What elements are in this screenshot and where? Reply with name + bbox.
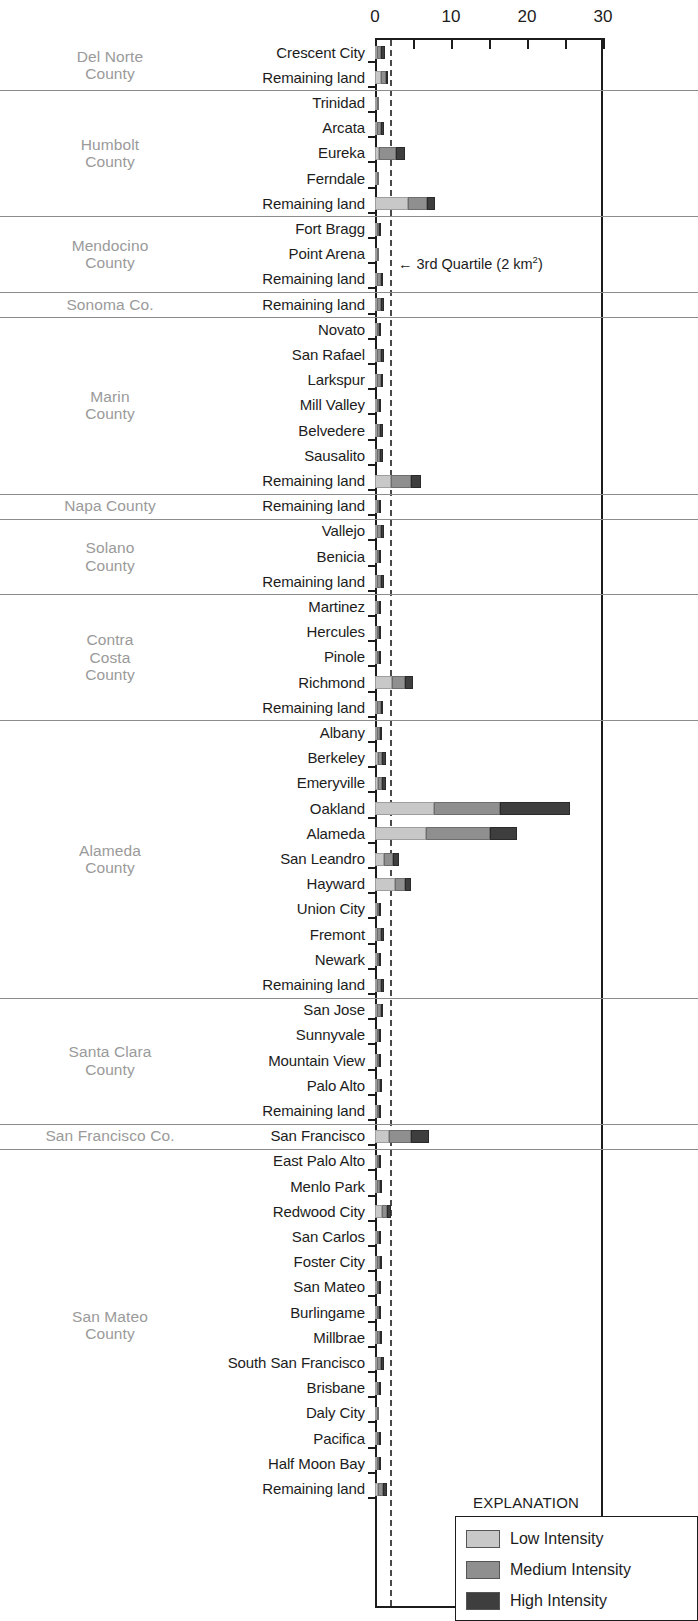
legend-swatch bbox=[466, 1561, 500, 1579]
county-separator bbox=[0, 594, 698, 595]
legend-item: Medium Intensity bbox=[466, 1554, 697, 1585]
bar bbox=[375, 802, 570, 815]
bar bbox=[375, 1382, 381, 1395]
row-label: Alameda bbox=[0, 826, 370, 841]
row-tick bbox=[368, 917, 375, 919]
row-tick bbox=[368, 86, 375, 88]
bar-segment-high bbox=[381, 374, 383, 387]
bar bbox=[375, 273, 383, 286]
bar-segment-high bbox=[383, 1483, 387, 1496]
bar bbox=[375, 827, 517, 840]
row-tick bbox=[368, 1396, 375, 1398]
bar-segment-high bbox=[386, 71, 388, 84]
bar-segment-high bbox=[381, 525, 384, 538]
bar-segment-high bbox=[379, 1029, 381, 1042]
row-label: Redwood City bbox=[0, 1204, 370, 1219]
bar-segment-high bbox=[381, 979, 384, 992]
bar-segment-high bbox=[380, 1256, 382, 1269]
bar bbox=[375, 1105, 381, 1118]
bar-segment-med bbox=[426, 827, 490, 840]
bar bbox=[375, 903, 381, 916]
row-tick bbox=[368, 514, 375, 516]
bar-segment-high bbox=[381, 349, 384, 362]
bar-segment-low bbox=[375, 475, 391, 488]
bar-segment-low bbox=[375, 676, 392, 689]
bar bbox=[375, 575, 384, 588]
bar-segment-med bbox=[377, 1407, 379, 1420]
row-tick bbox=[368, 615, 375, 617]
row-label: Pacifica bbox=[0, 1431, 370, 1446]
county-label: San Mateo County bbox=[10, 1308, 210, 1343]
county-separator bbox=[0, 494, 698, 495]
bar bbox=[375, 1281, 381, 1294]
bar bbox=[375, 223, 381, 236]
bar-segment-high bbox=[380, 424, 383, 437]
legend-swatch bbox=[466, 1530, 500, 1548]
row-tick bbox=[368, 766, 375, 768]
bar-segment-low bbox=[375, 1205, 382, 1218]
row-label: Newark bbox=[0, 952, 370, 967]
row-label: Berkeley bbox=[0, 750, 370, 765]
x-axis-tick-label: 20 bbox=[518, 8, 537, 25]
row-tick bbox=[368, 1321, 375, 1323]
x-axis bbox=[375, 38, 603, 50]
bar bbox=[375, 248, 379, 261]
bar bbox=[375, 1331, 382, 1344]
bar-segment-high bbox=[379, 500, 381, 513]
row-label: Half Moon Bay bbox=[0, 1456, 370, 1471]
row-label: Remaining land bbox=[0, 700, 370, 715]
bar-segment-high bbox=[379, 399, 381, 412]
row-tick bbox=[368, 1169, 375, 1171]
bar bbox=[375, 172, 379, 185]
bar bbox=[375, 651, 381, 664]
bar bbox=[375, 525, 384, 538]
bar bbox=[375, 1180, 382, 1193]
bar-segment-high bbox=[379, 1231, 381, 1244]
row-tick bbox=[368, 1472, 375, 1474]
bar-segment-high bbox=[379, 223, 381, 236]
bar-segment-high bbox=[381, 273, 384, 286]
bar-segment-med bbox=[377, 248, 379, 261]
row-label: East Palo Alto bbox=[0, 1153, 370, 1168]
row-tick bbox=[368, 665, 375, 667]
row-label: Palo Alto bbox=[0, 1078, 370, 1093]
x-axis-tick bbox=[565, 38, 567, 49]
county-separator bbox=[0, 292, 698, 293]
row-label: Foster City bbox=[0, 1254, 370, 1269]
bar bbox=[375, 500, 381, 513]
bar bbox=[375, 122, 384, 135]
bar-segment-high bbox=[379, 903, 381, 916]
bar-segment-high bbox=[381, 298, 384, 311]
bar-segment-med bbox=[392, 676, 405, 689]
bar-segment-high bbox=[387, 1205, 391, 1218]
bar bbox=[375, 1004, 383, 1017]
bar-segment-high bbox=[381, 928, 384, 941]
county-separator bbox=[0, 90, 698, 91]
row-tick bbox=[368, 1270, 375, 1272]
bar-segment-med bbox=[377, 172, 379, 185]
bar-segment-high bbox=[380, 449, 383, 462]
bar bbox=[375, 298, 384, 311]
county-separator bbox=[0, 998, 698, 999]
row-tick bbox=[368, 313, 375, 315]
row-tick bbox=[368, 565, 375, 567]
bar bbox=[375, 727, 382, 740]
row-tick bbox=[368, 539, 375, 541]
row-tick bbox=[368, 1295, 375, 1297]
row-label: Novato bbox=[0, 322, 370, 337]
bar-segment-low bbox=[375, 853, 384, 866]
row-label: Albany bbox=[0, 725, 370, 740]
row-label: Emeryville bbox=[0, 775, 370, 790]
bar bbox=[375, 626, 381, 639]
bar-segment-high bbox=[380, 1331, 382, 1344]
row-tick bbox=[368, 489, 375, 491]
row-label: South San Francisco bbox=[0, 1355, 370, 1370]
x-axis-tick-label: 10 bbox=[442, 8, 461, 25]
row-tick bbox=[368, 1069, 375, 1071]
legend: Low IntensityMedium IntensityHigh Intens… bbox=[455, 1516, 698, 1621]
row-tick bbox=[368, 968, 375, 970]
bar bbox=[375, 197, 435, 210]
bar-segment-high bbox=[427, 197, 435, 210]
row-tick bbox=[368, 1371, 375, 1373]
row-label: Remaining land bbox=[0, 196, 370, 211]
